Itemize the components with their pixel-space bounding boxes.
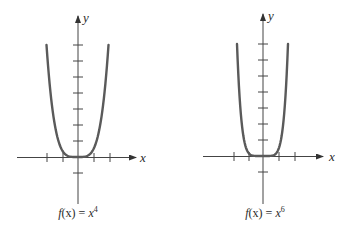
function-arg: (x) bbox=[62, 206, 76, 220]
graph-left: x y bbox=[17, 10, 146, 204]
y-axis-label: y bbox=[266, 8, 274, 23]
equals-sign: = bbox=[76, 206, 89, 220]
y-axis-label: y bbox=[81, 10, 89, 25]
x-axis-label: x bbox=[328, 149, 335, 164]
exponent: 4 bbox=[94, 205, 98, 214]
equals-sign: = bbox=[263, 206, 276, 220]
caption-right: f(x) = x6 bbox=[245, 205, 284, 221]
caption-left: f(x) = x4 bbox=[58, 205, 97, 221]
exponent: 6 bbox=[281, 205, 285, 214]
figure-canvas: x y x y bbox=[0, 0, 347, 235]
x-axis-label: x bbox=[139, 150, 146, 165]
graph-right: x y bbox=[203, 8, 335, 204]
function-arg: (x) bbox=[249, 206, 263, 220]
